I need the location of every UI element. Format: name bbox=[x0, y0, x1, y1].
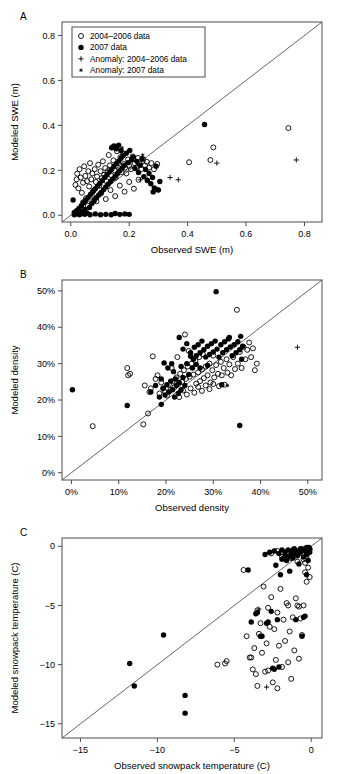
marker-filled-circle bbox=[132, 683, 137, 688]
marker-filled-circle bbox=[182, 383, 187, 388]
y-tick-label: 0.0 bbox=[42, 210, 55, 220]
x-tick-label: 0.8 bbox=[298, 229, 311, 239]
panel-a: A 0.00.20.40.60.80.00.20.40.60.8Observed… bbox=[0, 0, 339, 258]
x-tick-label: 0.0 bbox=[65, 229, 78, 239]
marker-filled-circle bbox=[112, 211, 117, 216]
y-tick-label: −15 bbox=[40, 719, 55, 729]
marker-open-circle bbox=[191, 372, 196, 377]
scatter-plot-c: −15−10−500−5−10−15Observed snowpack temp… bbox=[0, 516, 339, 774]
identity-line bbox=[62, 280, 322, 480]
marker-filled-circle bbox=[239, 357, 244, 362]
marker-filled-circle bbox=[161, 360, 166, 365]
y-tick-label: 10% bbox=[37, 432, 55, 442]
marker-filled-circle bbox=[182, 710, 187, 715]
data-points bbox=[127, 545, 312, 716]
x-tick-label: −5 bbox=[229, 745, 239, 755]
marker-filled-circle bbox=[262, 552, 267, 557]
marker-open-circle bbox=[199, 388, 204, 393]
marker-open-circle bbox=[301, 603, 306, 608]
marker-open-circle bbox=[218, 359, 223, 364]
legend-label: 2007 data bbox=[90, 42, 127, 52]
marker-filled-circle bbox=[276, 664, 281, 669]
marker-open-circle bbox=[73, 182, 78, 187]
marker-open-circle bbox=[82, 164, 87, 169]
marker-open-circle bbox=[100, 159, 105, 164]
marker-open-circle bbox=[245, 347, 250, 352]
marker-asterisk bbox=[300, 546, 304, 550]
marker-filled-circle bbox=[182, 693, 187, 698]
marker-filled-circle bbox=[216, 354, 221, 359]
marker-filled-circle bbox=[161, 632, 166, 637]
marker-asterisk bbox=[291, 547, 295, 551]
identity-line bbox=[62, 538, 322, 738]
marker-filled-circle bbox=[302, 613, 307, 618]
legend-item: Anomaly: 2004–2006 data bbox=[78, 54, 187, 64]
marker-filled-circle bbox=[70, 387, 75, 392]
marker-open-circle bbox=[175, 355, 180, 360]
marker-open-circle bbox=[83, 173, 88, 178]
panel-c: C −15−10−500−5−10−15Observed snowpack te… bbox=[0, 516, 339, 774]
marker-filled-circle bbox=[127, 148, 132, 153]
x-axis-title: Observed SWE (m) bbox=[151, 244, 233, 255]
y-tick-label: 0.8 bbox=[42, 31, 55, 41]
marker-filled-circle bbox=[125, 403, 130, 408]
marker-open-circle bbox=[106, 153, 111, 158]
data-points bbox=[70, 122, 298, 218]
marker-filled-circle bbox=[170, 387, 175, 392]
marker-filled-circle bbox=[103, 212, 108, 217]
marker-open-circle bbox=[192, 390, 197, 395]
y-tick-label: 30% bbox=[37, 359, 55, 369]
marker-filled-circle bbox=[197, 365, 202, 370]
marker-filled-circle bbox=[184, 361, 189, 366]
marker-filled-circle bbox=[199, 338, 204, 343]
marker-asterisk bbox=[135, 159, 139, 163]
series-open-circle bbox=[73, 126, 291, 209]
legend-label: Anomaly: 2007 data bbox=[90, 65, 164, 75]
marker-open-circle bbox=[184, 392, 189, 397]
marker-open-circle bbox=[235, 361, 240, 366]
marker-open-circle bbox=[250, 667, 255, 672]
marker-open-circle bbox=[227, 362, 232, 367]
marker-filled-circle bbox=[259, 634, 264, 639]
marker-filled-circle bbox=[87, 212, 92, 217]
marker-filled-circle bbox=[272, 548, 277, 553]
marker-open-circle bbox=[260, 650, 265, 655]
marker-filled-circle bbox=[293, 617, 298, 622]
marker-asterisk bbox=[79, 68, 83, 72]
marker-filled-circle bbox=[98, 212, 103, 217]
legend-label: 2004–2006 data bbox=[90, 31, 150, 41]
marker-open-circle bbox=[261, 584, 266, 589]
marker-filled-circle bbox=[157, 179, 162, 184]
marker-open-circle bbox=[89, 177, 94, 182]
marker-filled-circle bbox=[267, 550, 272, 555]
marker-filled-circle bbox=[153, 164, 158, 169]
y-tick-label: 20% bbox=[37, 395, 55, 405]
marker-open-circle bbox=[211, 145, 216, 150]
marker-open-circle bbox=[287, 629, 292, 634]
marker-filled-circle bbox=[212, 338, 217, 343]
marker-open-circle bbox=[292, 648, 297, 653]
marker-open-circle bbox=[108, 188, 113, 193]
marker-open-circle bbox=[258, 621, 263, 626]
marker-open-circle bbox=[215, 662, 220, 667]
marker-filled-circle bbox=[156, 187, 161, 192]
marker-open-circle bbox=[210, 368, 215, 373]
series-plus bbox=[256, 606, 269, 689]
marker-open-circle bbox=[208, 157, 213, 162]
marker-open-circle bbox=[254, 361, 259, 366]
marker-filled-circle bbox=[214, 346, 219, 351]
marker-filled-circle bbox=[150, 189, 155, 194]
marker-open-circle bbox=[276, 643, 281, 648]
x-tick-label: 40% bbox=[252, 487, 270, 497]
marker-open-circle bbox=[131, 186, 136, 191]
marker-open-circle bbox=[272, 627, 277, 632]
marker-open-circle bbox=[233, 367, 238, 372]
marker-open-circle bbox=[275, 610, 280, 615]
marker-filled-circle bbox=[304, 572, 309, 577]
marker-filled-circle bbox=[269, 609, 274, 614]
marker-filled-circle bbox=[78, 45, 83, 50]
marker-open-circle bbox=[296, 656, 301, 661]
x-tick-label: 30% bbox=[204, 487, 222, 497]
marker-open-circle bbox=[250, 346, 255, 351]
marker-filled-circle bbox=[180, 346, 185, 351]
